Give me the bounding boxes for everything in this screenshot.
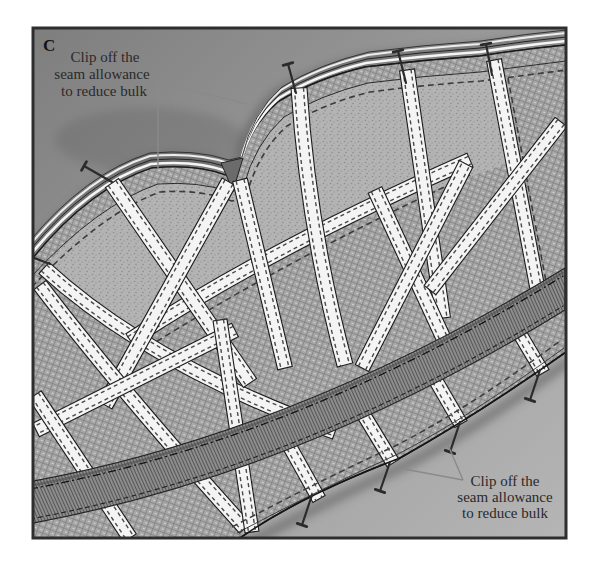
figure-c-illustration: C Clip off the seam allowance to reduce … <box>0 0 594 563</box>
panel-label: C <box>43 36 55 55</box>
caption-top-line-1: Clip off the <box>71 49 140 65</box>
caption-bottom-line-2: seam allowance <box>457 489 553 505</box>
book-page: C Clip off the seam allowance to reduce … <box>0 0 594 563</box>
caption-bottom-line-1: Clip off the <box>471 473 540 489</box>
pin-head <box>481 43 491 45</box>
caption-top-line-2: seam allowance <box>54 66 150 82</box>
caption-bottom: Clip off the seam allowance to reduce bu… <box>457 473 553 521</box>
caption-top-line-3: to reduce bulk <box>61 83 147 99</box>
illustration-clip <box>22 28 570 546</box>
background-shading <box>55 108 245 172</box>
caption-bottom-line-3: to reduce bulk <box>462 505 548 521</box>
